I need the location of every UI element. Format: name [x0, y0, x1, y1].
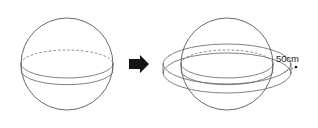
- dimension-label-50cm: 50cm: [276, 53, 299, 64]
- sphere-transformation-diagram: Sphere transformed into sphere with equa…: [0, 0, 318, 128]
- ring-lower-back-arc: [163, 53, 291, 73]
- dimension-leader-dot: [295, 66, 298, 69]
- left-equator-hidden-arc: [21, 50, 113, 64]
- diagram-canvas: Sphere transformed into sphere with equa…: [0, 0, 318, 128]
- right-sphere-group: [163, 18, 291, 110]
- right-arrow-icon: [129, 55, 149, 73]
- left-sphere-group: [21, 18, 113, 110]
- left-sphere-outline: [21, 18, 113, 110]
- right-equator-hidden-arc: [181, 50, 273, 64]
- transform-arrow-group: [129, 55, 149, 73]
- right-sphere-outline: [181, 18, 273, 110]
- dimension-group: 50cm: [276, 53, 299, 72]
- right-equator-visible-arc: [181, 64, 273, 78]
- left-equator-visible-arc: [21, 64, 113, 78]
